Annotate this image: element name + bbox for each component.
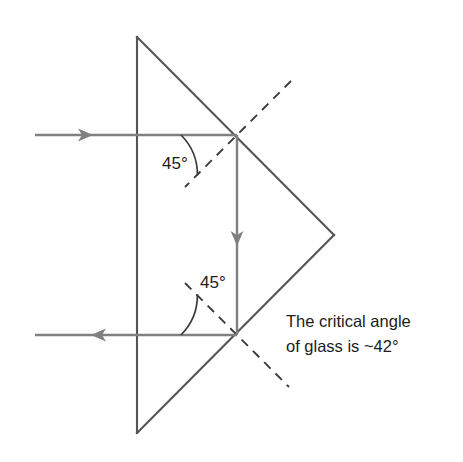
angle-label-top: 45° (162, 154, 188, 173)
critical-angle-note-line2: of glass is ~42° (286, 337, 399, 355)
critical-angle-note-line1: The critical angle (286, 312, 411, 330)
prism-outline-group (137, 37, 334, 433)
optics-diagram: 45° 45° The critical angle of glass is ~… (0, 0, 463, 462)
angle-arc-bottom (181, 295, 197, 335)
optics-svg-canvas: 45° 45° The critical angle of glass is ~… (0, 0, 463, 462)
angle-label-bottom: 45° (200, 273, 226, 292)
